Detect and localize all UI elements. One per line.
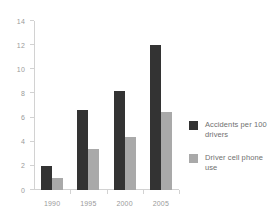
- y-tick: 6: [30, 117, 34, 118]
- bar: [114, 91, 125, 190]
- x-tick-label: 1990: [44, 200, 60, 207]
- y-tick: 0: [30, 189, 34, 190]
- legend-swatch-icon: [189, 121, 198, 130]
- chart-legend: Accidents per 100 driversDriver cell pho…: [189, 120, 267, 186]
- plot-area: 02468101214 1990199520002005: [34, 21, 179, 190]
- y-tick-label: 14: [17, 17, 25, 24]
- bar-chart: 02468101214 1990199520002005 Accidents p…: [0, 0, 270, 220]
- bar: [150, 45, 161, 190]
- x-tick: [70, 190, 71, 194]
- bar-group: [41, 21, 63, 190]
- y-tick-label: 8: [21, 89, 25, 96]
- legend-item: Driver cell phone use: [189, 153, 267, 173]
- legend-label: Accidents per 100 drivers: [205, 120, 267, 140]
- x-tick-label: 2000: [116, 200, 132, 207]
- legend-label: Driver cell phone use: [205, 153, 267, 173]
- bar: [161, 112, 172, 190]
- y-tick: 14: [30, 20, 34, 21]
- bar: [77, 110, 88, 190]
- bar: [52, 178, 63, 190]
- x-tick: [107, 190, 108, 194]
- bar: [125, 137, 136, 190]
- bar-group: [77, 21, 99, 190]
- y-tick: 2: [30, 165, 34, 166]
- x-tick: [179, 190, 180, 194]
- x-tick: [143, 190, 144, 194]
- y-tick-label: 10: [17, 65, 25, 72]
- y-tick: 12: [30, 44, 34, 45]
- bar: [88, 149, 99, 190]
- y-tick-label: 12: [17, 41, 25, 48]
- bar-group: [114, 21, 136, 190]
- legend-item: Accidents per 100 drivers: [189, 120, 267, 140]
- x-tick-label: 2005: [153, 200, 169, 207]
- y-axis-line: [34, 21, 35, 190]
- bar-group: [150, 21, 172, 190]
- y-tick-label: 4: [21, 138, 25, 145]
- legend-swatch-icon: [189, 154, 198, 163]
- y-tick-label: 2: [21, 162, 25, 169]
- bar: [41, 166, 52, 190]
- y-tick-label: 6: [21, 114, 25, 121]
- x-tick-label: 1995: [80, 200, 96, 207]
- y-tick: 10: [30, 68, 34, 69]
- y-tick: 8: [30, 92, 34, 93]
- y-tick: 4: [30, 141, 34, 142]
- y-tick-label: 0: [21, 186, 25, 193]
